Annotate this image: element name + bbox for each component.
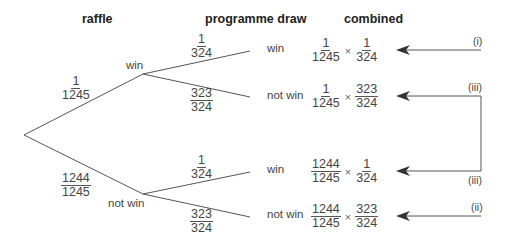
prob-raffle-not-win: 1244 1245 (61, 172, 91, 199)
combined-row-1: 11245 × 1324 (311, 37, 378, 64)
prob-notwin-not-win: 323 324 (190, 208, 213, 235)
header-programme-draw: programme draw (205, 12, 306, 26)
prob-win-not-win: 323 324 (190, 87, 213, 114)
header-raffle: raffle (82, 12, 113, 26)
arrow-iii-bracket (405, 96, 481, 171)
header-combined: combined (344, 12, 403, 26)
combined-row-2: 11245 × 323324 (311, 83, 378, 110)
leaf-win-not-win: not win (267, 89, 303, 101)
annotation-iii-top: (iii) (468, 81, 482, 93)
leaf-win-win: win (267, 42, 284, 54)
times-icon: × (345, 91, 351, 103)
tree-lines (0, 0, 505, 244)
prob-notwin-win: 1 324 (190, 154, 213, 181)
combined-row-3: 12441245 × 1324 (311, 158, 378, 185)
annotation-ii: (ii) (471, 201, 483, 213)
prob-win-win: 1 324 (190, 33, 213, 60)
times-icon: × (345, 45, 351, 57)
node-raffle-not-win: not win (108, 197, 144, 209)
times-icon: × (345, 211, 351, 223)
prob-raffle-win: 1 1245 (61, 75, 91, 102)
combined-row-4: 12441245 × 323324 (311, 203, 378, 230)
annotation-i: (i) (473, 35, 482, 47)
times-icon: × (345, 166, 351, 178)
leaf-notwin-win: win (267, 163, 284, 175)
annotation-iii-bottom: (iii) (468, 174, 482, 186)
leaf-notwin-not-win: not win (267, 208, 303, 220)
node-raffle-win: win (126, 59, 143, 71)
